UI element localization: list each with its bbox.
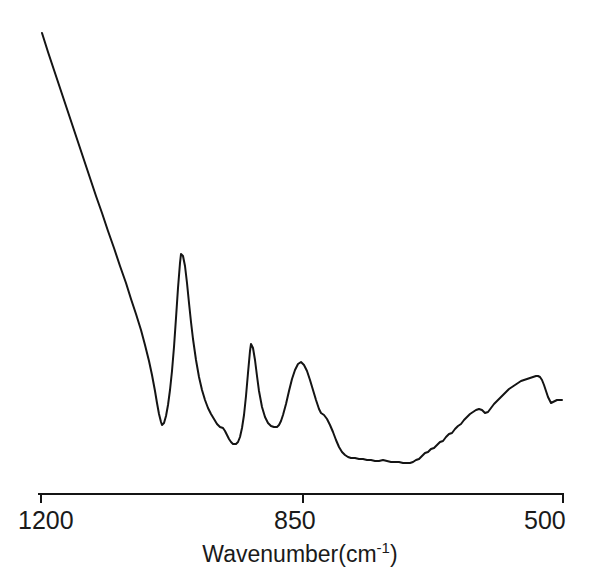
x-tick-label-850: 850 — [274, 508, 316, 533]
x-axis-ticks — [41, 494, 563, 503]
spectrum-figure: 1200 850 500 Wavenumber(cm-1) — [0, 0, 600, 588]
x-tick-label-500: 500 — [524, 508, 566, 533]
x-axis — [38, 494, 564, 503]
x-axis-title-main: Wavenumber(cm — [202, 541, 376, 567]
x-axis-title: Wavenumber(cm-1) — [0, 543, 600, 566]
x-axis-title-exponent: -1 — [377, 539, 390, 556]
spectrum-plot — [0, 0, 600, 588]
x-tick-label-1200: 1200 — [18, 508, 74, 533]
spectrum-trace — [42, 33, 562, 463]
x-axis-title-paren: ) — [390, 541, 398, 567]
